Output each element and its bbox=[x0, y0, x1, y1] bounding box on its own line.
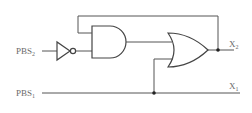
logic-circuit-diagram: PBS2 X2 PBS1 X1 bbox=[0, 0, 252, 113]
and-gate bbox=[92, 26, 126, 58]
junction-pbs1 bbox=[152, 91, 156, 95]
inverter-bubble bbox=[70, 48, 75, 53]
not-gate bbox=[57, 42, 76, 60]
junction-x2 bbox=[216, 48, 220, 52]
label-pbs2: PBS2 bbox=[16, 46, 35, 57]
label-pbs1: PBS1 bbox=[16, 88, 35, 99]
label-x2: X2 bbox=[229, 39, 239, 50]
or-gate bbox=[168, 33, 208, 67]
label-x1: X1 bbox=[229, 81, 239, 92]
